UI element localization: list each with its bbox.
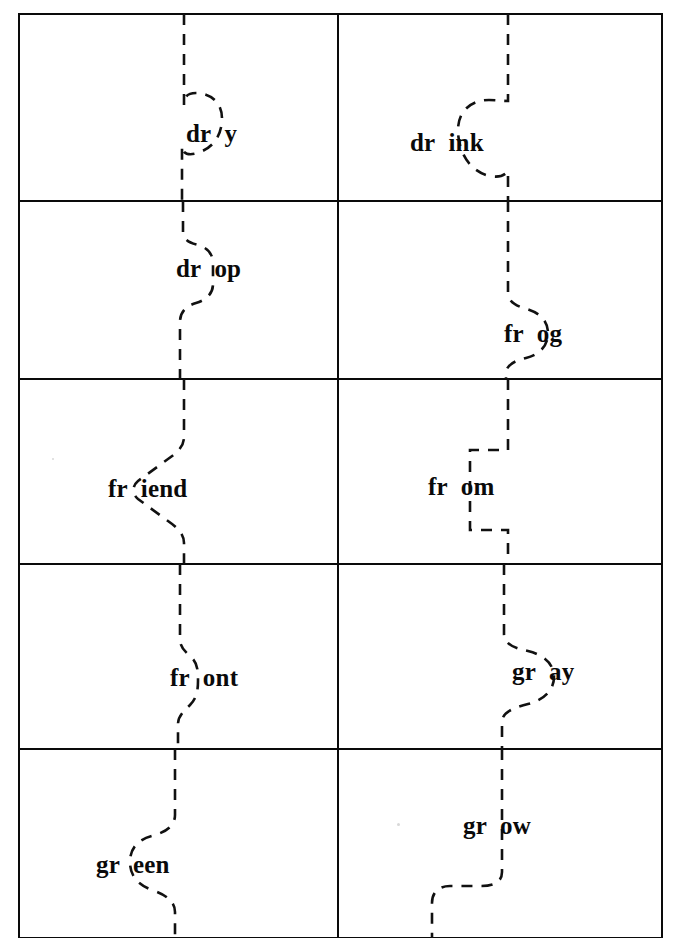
word-rime: ink bbox=[448, 129, 483, 157]
word-onset: dr bbox=[186, 120, 211, 148]
scan-speck bbox=[397, 823, 400, 826]
word-rime: een bbox=[133, 851, 170, 879]
word-rime: ay bbox=[549, 658, 574, 686]
word-rime: iend bbox=[141, 475, 188, 503]
scan-speck bbox=[52, 458, 54, 460]
word-onset: fr bbox=[170, 664, 190, 692]
word-card-drop: drop bbox=[176, 255, 241, 283]
word-card-drink: drink bbox=[410, 129, 484, 157]
word-card-front: front bbox=[170, 664, 238, 692]
word-card-friend: friend bbox=[108, 475, 187, 503]
word-onset: dr bbox=[176, 255, 201, 283]
word-rime: op bbox=[214, 255, 241, 283]
word-card-gray: gray bbox=[512, 658, 574, 686]
word-card-grow: grow bbox=[463, 812, 531, 840]
word-rime: om bbox=[461, 473, 495, 501]
word-onset: fr bbox=[108, 475, 128, 503]
word-onset: fr bbox=[428, 473, 448, 501]
word-onset: fr bbox=[504, 320, 524, 348]
word-rime: y bbox=[224, 120, 237, 148]
word-card-from: from bbox=[428, 473, 495, 501]
word-onset: gr bbox=[512, 658, 536, 686]
worksheet-page: drydrinkdropfrogfriendfromfrontgraygreen… bbox=[0, 0, 680, 938]
word-rime: ont bbox=[203, 664, 238, 692]
word-rime: ow bbox=[500, 812, 531, 840]
word-rime: og bbox=[537, 320, 562, 348]
word-onset: dr bbox=[410, 129, 435, 157]
word-onset: gr bbox=[96, 851, 120, 879]
word-card-green: green bbox=[96, 851, 170, 879]
card-words-layer: drydrinkdropfrogfriendfromfrontgraygreen… bbox=[0, 0, 680, 938]
word-onset: gr bbox=[463, 812, 487, 840]
word-card-frog: frog bbox=[504, 320, 562, 348]
word-card-dry: dry bbox=[186, 120, 237, 148]
